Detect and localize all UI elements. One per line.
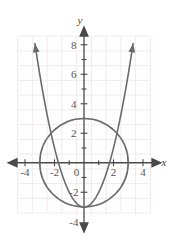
y-tick-label-6: 6: [71, 68, 77, 80]
x-axis-right-arrowhead: [152, 159, 161, 167]
axes-lines: [8, 27, 161, 232]
coordinate-plane-svg: -4 -2 0 2 4 8 6 4 2 -2 -4 x y: [0, 0, 172, 243]
y-tick-label-4: 4: [71, 98, 77, 110]
x-tick-label-2: 2: [111, 166, 117, 178]
graph-figure: -4 -2 0 2 4 8 6 4 2 -2 -4 x y: [0, 0, 172, 243]
parabola-left-arrowhead: [33, 43, 40, 52]
x-tick-label-4: 4: [140, 166, 146, 178]
y-tick-label--2: -2: [69, 186, 78, 198]
x-tick-label-0: 0: [74, 166, 80, 178]
y-tick-label-8: 8: [71, 39, 77, 51]
y-axis-label: y: [77, 14, 83, 26]
x-tick-label--4: -4: [20, 166, 30, 178]
x-axis-label: x: [161, 156, 167, 168]
parabola-right-arrowhead: [128, 43, 135, 52]
y-axis-up-arrowhead: [80, 27, 88, 36]
y-tick-label--4: -4: [69, 216, 79, 228]
x-tick-label--2: -2: [50, 166, 59, 178]
x-axis-left-arrowhead: [8, 159, 17, 167]
y-axis-down-arrowhead: [80, 223, 88, 232]
y-tick-label-2: 2: [71, 127, 77, 139]
